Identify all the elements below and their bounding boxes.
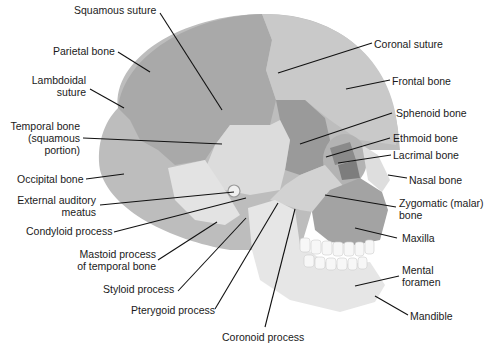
- label-coronoid-process: Coronoid process: [222, 331, 304, 343]
- label-temporal-line1: Temporal bone: [6, 120, 80, 132]
- label-temporal-bone: Temporal bone (squamous portion): [6, 120, 80, 156]
- label-squamous-suture: Squamous suture: [74, 4, 156, 16]
- label-zygomatic-bone: Zygomatic (malar) bone: [399, 197, 484, 221]
- label-eam-line2: meatus: [14, 206, 96, 218]
- label-sphenoid-bone: Sphenoid bone: [396, 107, 467, 119]
- label-lambdoidal-suture: Lambdoidal suture: [28, 74, 86, 98]
- label-lambdoidal-line2: suture: [28, 86, 86, 98]
- label-mental-line1: Mental: [402, 264, 441, 276]
- label-styloid-process: Styloid process: [103, 283, 174, 295]
- label-ethmoid-bone: Ethmoid bone: [393, 132, 458, 144]
- label-parietal-bone: Parietal bone: [53, 45, 115, 57]
- external-auditory-meatus: [228, 185, 240, 197]
- label-mastoid-line1: Mastoid process: [64, 248, 156, 260]
- label-lambdoidal-line1: Lambdoidal: [28, 74, 86, 86]
- label-eam-line1: External auditory: [14, 194, 96, 206]
- label-frontal-bone: Frontal bone: [392, 75, 451, 87]
- label-coronal-suture: Coronal suture: [374, 38, 443, 50]
- label-temporal-line3: portion): [6, 144, 80, 156]
- label-occipital-bone: Occipital bone: [17, 173, 84, 185]
- label-pterygoid-process: Pterygoid process: [131, 304, 215, 316]
- label-zygomatic-line2: bone: [399, 209, 484, 221]
- label-temporal-line2: (squamous: [6, 132, 80, 144]
- label-nasal-bone: Nasal bone: [409, 174, 462, 186]
- label-mastoid-process: Mastoid process of temporal bone: [64, 248, 156, 272]
- label-external-auditory-meatus: External auditory meatus: [14, 194, 96, 218]
- label-mastoid-line2: of temporal bone: [64, 260, 156, 272]
- label-mental-foramen: Mental foramen: [402, 264, 441, 288]
- label-maxilla: Maxilla: [402, 232, 435, 244]
- label-lacrimal-bone: Lacrimal bone: [393, 149, 459, 161]
- label-mandible: Mandible: [410, 310, 453, 322]
- label-condyloid-process: Condyloid process: [26, 225, 112, 237]
- label-mental-line2: foramen: [402, 276, 441, 288]
- label-zygomatic-line1: Zygomatic (malar): [399, 197, 484, 209]
